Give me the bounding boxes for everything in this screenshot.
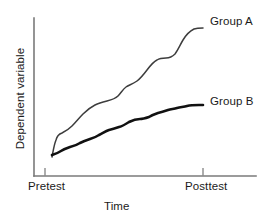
x-axis-label: Time — [104, 200, 130, 213]
line-chart: Dependent variable Time Pretest Posttest… — [0, 0, 264, 219]
series-label-group-b: Group B — [210, 95, 254, 108]
series-label-group-a: Group A — [210, 15, 253, 28]
series-line-group-b — [52, 105, 203, 155]
series-line-group-a — [52, 28, 203, 157]
y-axis-label: Dependent variable — [14, 43, 27, 155]
x-tick-label-pretest: Pretest — [28, 180, 65, 193]
x-tick-label-posttest: Posttest — [185, 180, 227, 193]
